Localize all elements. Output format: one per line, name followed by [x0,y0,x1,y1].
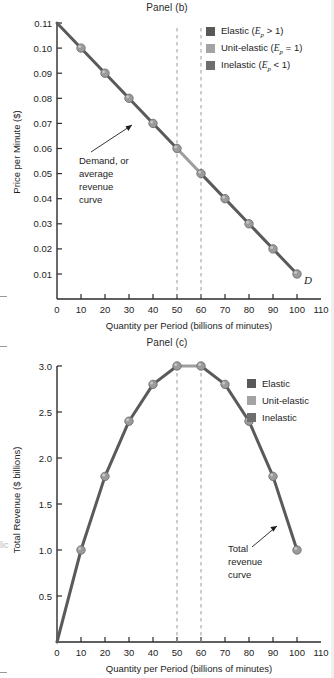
legend-label-inelastic: Inelastic (Ep < 1) [221,59,290,73]
panel-b-demand-curve-label: D [303,274,312,286]
panel-b-curve-elastic [57,23,177,149]
legend-swatch-elastic-icon [206,27,215,36]
svg-text:80: 80 [244,304,255,315]
panel-c-y-axis-title: Total Revenue ($ billions) [11,447,22,554]
panel-c-curve-elastic [57,366,177,642]
panel-b-annotation-arrow [91,125,132,152]
svg-text:0.5: 0.5 [39,591,52,602]
panel-b-y-axis-title: Price per Minute ($) [11,110,22,193]
panel-b-x-tick-labels: 0 10 20 30 40 50 60 70 80 90 100 110 [54,304,328,315]
svg-text:60: 60 [196,647,207,658]
panel-b-legend: Elastic (Ep > 1) Unit-elastic (Ep = 1) I… [206,24,302,75]
panel-b: Panel (b) 0.11 0.10 [0,0,334,340]
legend-label-unit-elastic: Unit-elastic (Ep = 1) [221,42,302,56]
panel-b-annotation-line-2: revenue [79,181,113,192]
panel-b-annotation-line-3: curve [79,194,102,205]
svg-text:0.10: 0.10 [34,43,53,54]
legend-label-elastic: Elastic (Ep > 1) [221,25,283,39]
panel-c-y-ticks [57,366,62,596]
page-edge-tick [0,346,7,347]
svg-text:110: 110 [313,647,328,658]
page-edge-tick [0,296,7,297]
panel-c-annotation-line-2: curve [228,569,251,580]
legend-swatch-inelastic-icon [247,413,256,422]
svg-text:0.01: 0.01 [34,269,53,280]
svg-text:0.03: 0.03 [34,218,53,229]
legend-label-elastic-c: Elastic [262,378,290,389]
svg-text:0.02: 0.02 [34,243,53,254]
svg-text:0.11: 0.11 [34,18,52,29]
svg-text:0: 0 [54,647,59,658]
panel-c-x-axis-title: Quantity per Period (billions of minutes… [106,663,272,674]
panel-b-annotation-line-0: Demand, or [79,155,129,166]
panel-b-y-tick-labels: 0.11 0.10 0.09 0.08 0.07 0.06 0.05 0.04 … [34,18,53,280]
svg-text:3.0: 3.0 [39,361,52,372]
panel-c-x-tick-labels: 0 10 20 30 40 50 60 70 80 90 100 110 [54,647,328,658]
svg-text:90: 90 [268,304,279,315]
svg-text:10: 10 [76,304,87,315]
panel-c: Panel (c) 3.0 2.5 2.0 1.5 1.0 0.5 [0,334,334,678]
svg-text:60: 60 [196,304,207,315]
legend-item-inelastic: Inelastic (Ep < 1) [206,58,302,73]
panel-c-annotation-line-0: Total [228,543,248,554]
legend-item-elastic: Elastic (Ep > 1) [206,24,302,39]
legend-item-unit-elastic: Unit-elastic (Ep = 1) [206,41,302,56]
svg-text:0.04: 0.04 [34,193,53,204]
page-edge-ghost-text: lic [0,540,9,550]
panel-c-annotation-arrow [252,526,277,547]
legend-item-inelastic-c: Inelastic [247,410,309,425]
svg-text:1.0: 1.0 [39,545,52,556]
svg-text:50: 50 [172,304,183,315]
svg-text:0.08: 0.08 [34,93,53,104]
panel-c-annotation-line-1: revenue [228,556,262,567]
legend-item-elastic-c: Elastic [247,376,309,391]
svg-text:20: 20 [100,647,111,658]
panel-b-x-axis-title: Quantity per Period (billions of minutes… [106,320,272,331]
svg-text:30: 30 [124,304,135,315]
panel-c-x-ticks [81,637,297,642]
svg-text:20: 20 [100,304,111,315]
panel-c-legend: Elastic Unit-elastic Inelastic [247,376,309,427]
panel-b-x-ticks [81,294,297,299]
panel-b-y-ticks [57,23,62,274]
svg-text:2.0: 2.0 [39,453,52,464]
svg-text:30: 30 [124,647,135,658]
svg-text:90: 90 [268,647,279,658]
svg-text:0: 0 [54,304,59,315]
svg-text:70: 70 [220,304,231,315]
svg-text:1.5: 1.5 [39,499,52,510]
panel-c-title: Panel (c) [0,337,334,348]
svg-text:110: 110 [313,304,328,315]
svg-text:100: 100 [289,304,305,315]
elasticity-figure: Panel (b) 0.11 0.10 [0,0,334,678]
legend-swatch-elastic-icon [247,379,256,388]
svg-text:0.09: 0.09 [34,68,53,79]
page-edge-tick [0,672,7,673]
svg-text:0.07: 0.07 [34,118,53,129]
legend-swatch-inelastic-icon [206,61,215,70]
panel-b-curve-unit-elastic [177,149,201,174]
svg-text:0.05: 0.05 [34,168,53,179]
legend-label-inelastic-c: Inelastic [262,412,297,423]
svg-text:80: 80 [244,647,255,658]
legend-label-unit-elastic-c: Unit-elastic [262,395,309,406]
svg-text:100: 100 [289,647,305,658]
panel-c-y-tick-labels: 3.0 2.5 2.0 1.5 1.0 0.5 [39,361,52,602]
svg-text:50: 50 [172,647,183,658]
svg-text:70: 70 [220,647,231,658]
svg-text:40: 40 [148,647,159,658]
legend-swatch-unit-elastic-icon [206,44,215,53]
svg-text:0.06: 0.06 [34,143,53,154]
legend-item-unit-elastic-c: Unit-elastic [247,393,309,408]
svg-text:2.5: 2.5 [39,407,52,418]
svg-text:10: 10 [76,647,87,658]
svg-text:40: 40 [148,304,159,315]
panel-b-annotation-line-1: average [79,168,113,179]
legend-swatch-unit-elastic-icon [247,396,256,405]
